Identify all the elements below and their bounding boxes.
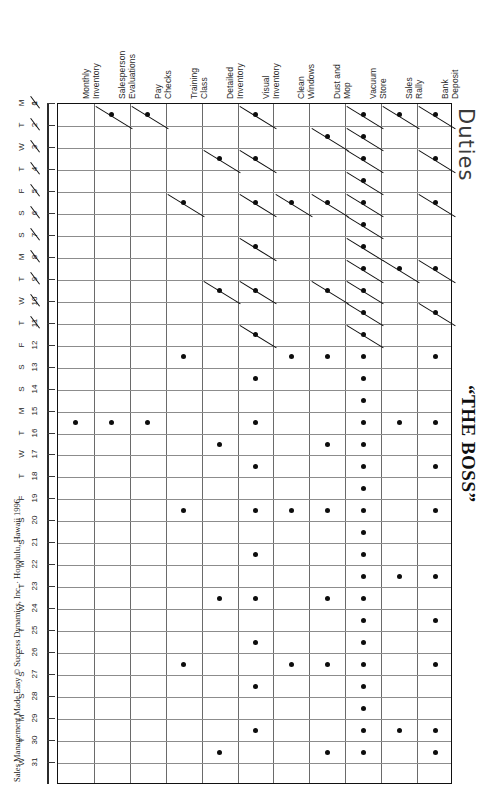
duty-dot[interactable]	[325, 596, 330, 601]
duty-dot[interactable]	[253, 684, 258, 689]
column-header-line2: Mop	[343, 85, 353, 99]
duty-dot[interactable]	[361, 508, 366, 513]
duty-dot[interactable]	[253, 508, 258, 513]
axis-tick	[47, 586, 55, 587]
grid-row-line	[58, 631, 451, 632]
boss-title: “THE BOSS”	[457, 385, 479, 502]
column-header-training-class[interactable]: TrainingClass	[190, 85, 209, 99]
duty-dot[interactable]	[325, 442, 330, 447]
duty-dot[interactable]	[361, 662, 366, 667]
duty-dot[interactable]	[361, 398, 366, 403]
column-header-monthly-inventory[interactable]: MonthlyInventory	[82, 85, 101, 99]
duty-dot[interactable]	[181, 354, 186, 359]
duty-dot[interactable]	[361, 376, 366, 381]
duty-dot[interactable]	[253, 640, 258, 645]
duty-dot[interactable]	[433, 508, 438, 513]
duty-dot[interactable]	[433, 574, 438, 579]
axis-tick	[47, 147, 55, 148]
column-header-dust-and-mop[interactable]: Dust andMop	[333, 85, 352, 99]
duty-dot[interactable]	[361, 552, 366, 557]
duty-dot[interactable]	[361, 442, 366, 447]
duty-dot[interactable]	[397, 420, 402, 425]
duty-dot-completed[interactable]	[361, 310, 366, 315]
grid-column-line	[166, 104, 167, 783]
axis-day-letter: M	[18, 94, 26, 112]
column-header-vacuum-store[interactable]: VacuumStore	[369, 85, 388, 99]
grid-row-line	[58, 126, 451, 127]
axis-tick	[47, 674, 55, 675]
duty-dot[interactable]	[217, 442, 222, 447]
axis-tick	[47, 169, 55, 170]
duty-dot[interactable]	[361, 640, 366, 645]
duty-dot[interactable]	[433, 618, 438, 623]
duty-dot[interactable]	[361, 464, 366, 469]
grid-column-line	[381, 104, 382, 783]
duty-dot[interactable]	[253, 596, 258, 601]
duty-dot[interactable]	[253, 376, 258, 381]
duty-dot[interactable]	[433, 728, 438, 733]
axis-date-number: 16	[31, 424, 39, 442]
duty-dot[interactable]	[433, 662, 438, 667]
duty-dot[interactable]	[289, 662, 294, 667]
column-header-detailed-inventory[interactable]: DetailedInventory	[226, 85, 245, 99]
duty-dot[interactable]	[361, 706, 366, 711]
column-header-salesperson-evaluations[interactable]: SalespersonEvaluations	[118, 85, 137, 99]
column-header-line2: Inventory	[271, 85, 281, 99]
duty-dot[interactable]	[325, 750, 330, 755]
column-header-sales-rally[interactable]: SalesRally	[405, 85, 424, 99]
duty-dot[interactable]	[361, 420, 366, 425]
duty-dot[interactable]	[361, 684, 366, 689]
duty-dot[interactable]	[433, 464, 438, 469]
duty-dot[interactable]	[253, 552, 258, 557]
axis-tick	[47, 235, 55, 236]
duty-dot[interactable]	[217, 750, 222, 755]
duty-dot[interactable]	[289, 354, 294, 359]
duty-dot[interactable]	[325, 508, 330, 513]
duty-dot-completed[interactable]	[361, 266, 366, 271]
duty-dot-completed[interactable]	[361, 332, 366, 337]
grid-row-line	[58, 148, 451, 149]
duty-dot[interactable]	[253, 464, 258, 469]
duty-dot[interactable]	[109, 420, 114, 425]
duty-dot[interactable]	[361, 728, 366, 733]
column-header-bank-deposit[interactable]: BankDeposit	[441, 85, 460, 99]
grid-row-line	[58, 763, 451, 764]
duty-dot[interactable]	[397, 728, 402, 733]
duty-dot[interactable]	[433, 420, 438, 425]
duty-dot[interactable]	[289, 508, 294, 513]
axis-date-number: 26	[31, 643, 39, 661]
column-header-line2: Rally	[415, 85, 425, 99]
duty-dot-completed[interactable]	[433, 266, 438, 271]
duty-dot[interactable]	[325, 662, 330, 667]
axis-date-number: 20	[31, 511, 39, 529]
duty-dot[interactable]	[253, 728, 258, 733]
duty-dot[interactable]	[361, 574, 366, 579]
duty-dot[interactable]	[433, 354, 438, 359]
duty-dot[interactable]	[361, 486, 366, 491]
duty-dot-completed[interactable]	[433, 200, 438, 205]
duty-grid[interactable]	[57, 103, 452, 784]
duty-dot[interactable]	[361, 750, 366, 755]
duty-dot-completed[interactable]	[361, 288, 366, 293]
duty-dot[interactable]	[397, 574, 402, 579]
duty-dot[interactable]	[181, 662, 186, 667]
duty-dot-completed[interactable]	[397, 266, 402, 271]
duty-dot[interactable]	[325, 354, 330, 359]
duty-dot[interactable]	[145, 420, 150, 425]
column-header-clean-windows[interactable]: CleanWindows	[297, 85, 316, 99]
duty-dot[interactable]	[361, 596, 366, 601]
duties-title: Duties	[454, 108, 478, 181]
column-header-pay-checks[interactable]: PayChecks	[154, 85, 173, 99]
duty-dot-completed[interactable]	[433, 310, 438, 315]
duty-dot[interactable]	[73, 420, 78, 425]
column-header-visual-inventory[interactable]: VisualInventory	[262, 85, 281, 99]
duty-dot[interactable]	[361, 530, 366, 535]
duty-dot[interactable]	[217, 596, 222, 601]
duty-dot[interactable]	[433, 750, 438, 755]
duty-dot[interactable]	[181, 508, 186, 513]
duty-dot[interactable]	[361, 618, 366, 623]
axis-date-number: 28	[31, 687, 39, 705]
grid-row-line	[58, 412, 451, 413]
duty-dot[interactable]	[361, 354, 366, 359]
duty-dot[interactable]	[253, 420, 258, 425]
